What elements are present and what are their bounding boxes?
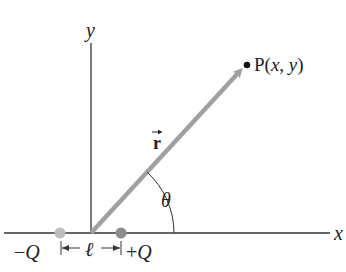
negative-charge — [55, 228, 66, 239]
positive-charge-label: +Q — [126, 241, 152, 263]
vector-label-text: r — [153, 133, 161, 153]
positive-charge — [116, 228, 127, 239]
x-axis-label: x — [333, 222, 343, 244]
y-axis-label: y — [84, 19, 95, 42]
point-p — [244, 62, 251, 69]
dipole-diagram: y x P(x, y) r θ −Q ℓ +Q — [0, 0, 346, 272]
point-label: P(x, y) — [254, 54, 304, 76]
angle-label: θ — [161, 189, 171, 211]
negative-charge-label: −Q — [14, 241, 40, 263]
separation-label: ℓ — [85, 238, 94, 260]
vector-label: r — [152, 130, 162, 154]
diagram-svg: y x P(x, y) r θ −Q ℓ +Q — [0, 0, 346, 272]
